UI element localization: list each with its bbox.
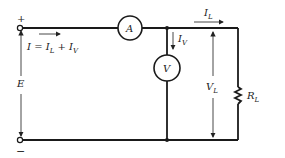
minus-sign: − [16, 145, 25, 158]
positive-terminal [17, 25, 22, 30]
load-voltage-label: VL [206, 81, 218, 95]
resistor-label: RL [246, 90, 260, 104]
voltmeter-current-label: IV [177, 33, 188, 47]
total-current-label: I = IL + IV [26, 41, 79, 55]
source-label: E [16, 78, 25, 89]
circuit-diagram: + − E I = IL + IV A V IV IL VL RL [0, 0, 285, 158]
negative-terminal [17, 137, 22, 142]
ammeter-label: A [125, 23, 133, 34]
load-resistor [235, 87, 241, 104]
load-current-label: IL [203, 7, 213, 21]
plus-sign: + [17, 13, 25, 24]
